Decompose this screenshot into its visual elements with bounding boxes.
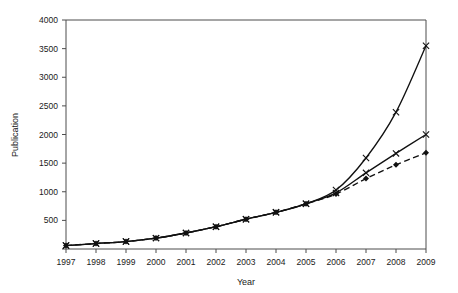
x-axis-ticks [66, 249, 426, 253]
x-tick-label: 2005 [297, 257, 316, 267]
data-point [423, 150, 429, 156]
x-axis-title: Year [237, 277, 255, 287]
y-axis-title: Publication [10, 113, 20, 157]
y-axis-ticks [62, 20, 66, 249]
x-tick-label: 2006 [327, 257, 346, 267]
y-tick-label: 4000 [39, 15, 58, 25]
x-tick-label: 2009 [417, 257, 436, 267]
x-tick-label: 2008 [387, 257, 406, 267]
x-tick-label: 1999 [117, 257, 136, 267]
axis-frame [66, 20, 426, 249]
data-point [363, 170, 369, 176]
data-series-layer [66, 46, 426, 246]
diamond-marker-icon [363, 176, 369, 182]
series-line-linear-projection [66, 135, 426, 246]
x-axis-tick-labels: 1997199819992000200120022003200420052006… [57, 257, 436, 267]
chart-canvas: 5001000150020002500300035004000 19971998… [0, 0, 458, 293]
diamond-marker-icon [393, 162, 399, 168]
series-line-exponential-projection [66, 46, 426, 246]
x-tick-label: 1997 [57, 257, 76, 267]
y-tick-label: 2000 [39, 130, 58, 140]
x-tick-label: 2003 [237, 257, 256, 267]
y-tick-label: 1500 [39, 158, 58, 168]
y-tick-label: 3000 [39, 72, 58, 82]
data-point [393, 162, 399, 168]
x-tick-label: 2001 [177, 257, 196, 267]
data-point [363, 155, 369, 161]
diamond-marker-icon [423, 150, 429, 156]
data-point [363, 176, 369, 182]
series-line-observed-publications [66, 153, 426, 246]
x-tick-label: 2007 [357, 257, 376, 267]
x-tick-label: 2000 [147, 257, 166, 267]
data-point [393, 150, 399, 156]
y-tick-label: 1000 [39, 187, 58, 197]
data-point [393, 109, 399, 115]
x-tick-label: 1998 [87, 257, 106, 267]
y-tick-label: 500 [44, 215, 58, 225]
y-tick-label: 3500 [39, 44, 58, 54]
x-tick-label: 2004 [267, 257, 286, 267]
x-tick-label: 2002 [207, 257, 226, 267]
data-marker-layer [63, 43, 429, 249]
y-tick-label: 2500 [39, 101, 58, 111]
publication-trend-chart: 5001000150020002500300035004000 19971998… [0, 0, 458, 293]
y-axis-tick-labels: 5001000150020002500300035004000 [39, 15, 58, 225]
